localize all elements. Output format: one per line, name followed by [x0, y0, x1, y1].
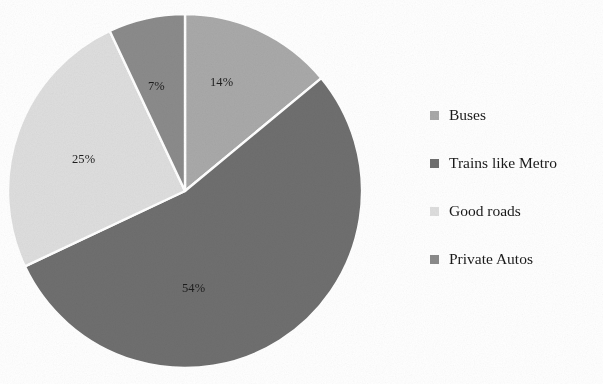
- legend-item-label: Good roads: [449, 200, 521, 222]
- legend-swatch-icon: [430, 111, 439, 120]
- legend-swatch-icon: [430, 255, 439, 264]
- legend-item-label: Buses: [449, 104, 486, 126]
- pie-plot-area: 14% 54% 25% 7%: [0, 0, 380, 384]
- slice-value-label-trains-like-metro: 54%: [182, 281, 205, 296]
- legend-swatch-icon: [430, 207, 439, 216]
- legend-item-label: Private Autos: [449, 248, 533, 270]
- slice-value-label-private-autos: 7%: [148, 79, 165, 94]
- legend-item-private-autos[interactable]: Private Autos: [430, 248, 603, 296]
- pie-svg: [0, 0, 380, 384]
- legend-item-good-roads[interactable]: Good roads: [430, 200, 603, 248]
- pie-chart-figure: 14% 54% 25% 7% Buses Trains like Metro G…: [0, 0, 603, 384]
- legend-item-buses[interactable]: Buses: [430, 104, 603, 152]
- pie-slices: [8, 14, 362, 368]
- slice-value-label-good-roads: 25%: [72, 152, 95, 167]
- slice-value-label-buses: 14%: [210, 75, 233, 90]
- legend-item-trains-like-metro[interactable]: Trains like Metro: [430, 152, 603, 200]
- legend-swatch-icon: [430, 159, 439, 168]
- chart-legend: Buses Trains like Metro Good roads Priva…: [430, 104, 603, 296]
- legend-item-label: Trains like Metro: [449, 152, 557, 174]
